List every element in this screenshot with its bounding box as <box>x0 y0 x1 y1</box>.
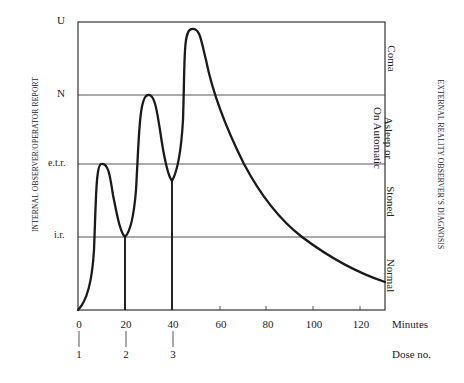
x-tick-120: 120 <box>353 318 370 330</box>
y-axis-left-title: INTERNAL OBSERVER/OPERATOR REPORT <box>31 65 40 245</box>
dose-connectors <box>79 331 173 347</box>
dose-3: 3 <box>170 348 176 360</box>
x-axis-unit: Minutes <box>392 318 428 330</box>
x-tick-40: 40 <box>168 318 179 330</box>
y-level-etr: e.t.r. <box>48 157 66 168</box>
state-asleep-line2: On Automatic <box>372 98 383 178</box>
x-tick-20: 20 <box>121 318 132 330</box>
x-tick-60: 60 <box>216 318 227 330</box>
x-tick-80: 80 <box>263 318 274 330</box>
dose-1: 1 <box>76 348 82 360</box>
state-coma: Coma <box>386 39 397 79</box>
state-stoned: Stoned <box>385 180 396 224</box>
y-level-N: N <box>57 87 65 99</box>
state-normal: Normal <box>385 253 396 299</box>
y-level-ir: i.r. <box>54 229 65 240</box>
y-level-U: U <box>57 14 65 26</box>
y-axis-right-title: EXTERNAL REALITY OBSERVER’S DIAGNOSIS <box>436 65 445 265</box>
x-tick-100: 100 <box>306 318 323 330</box>
x-tick-0: 0 <box>76 318 82 330</box>
state-asleep: Asleep or On Automatic <box>370 98 394 178</box>
dose-axis-label: Dose no. <box>392 348 431 360</box>
dose-2: 2 <box>123 348 129 360</box>
state-asleep-line1: Asleep or <box>383 98 394 178</box>
